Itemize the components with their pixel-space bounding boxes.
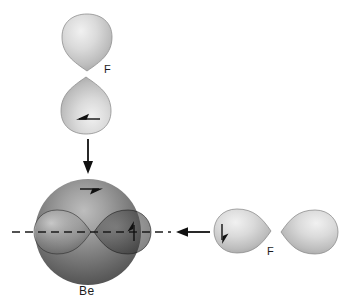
fluorine-top-p-orbital-lower-lobe [61, 77, 111, 134]
fluorine-top-label: F [104, 63, 111, 75]
beryllium-label: Be [79, 284, 95, 298]
fluorine-right-p-orbital-right-lobe [281, 210, 338, 254]
down-arrow-icon [83, 139, 93, 174]
left-arrow-icon [176, 227, 210, 237]
fluorine-right-label: F [267, 245, 274, 257]
orbital-diagram: F F Be [0, 0, 345, 301]
orbital-diagram-canvas [0, 0, 345, 301]
